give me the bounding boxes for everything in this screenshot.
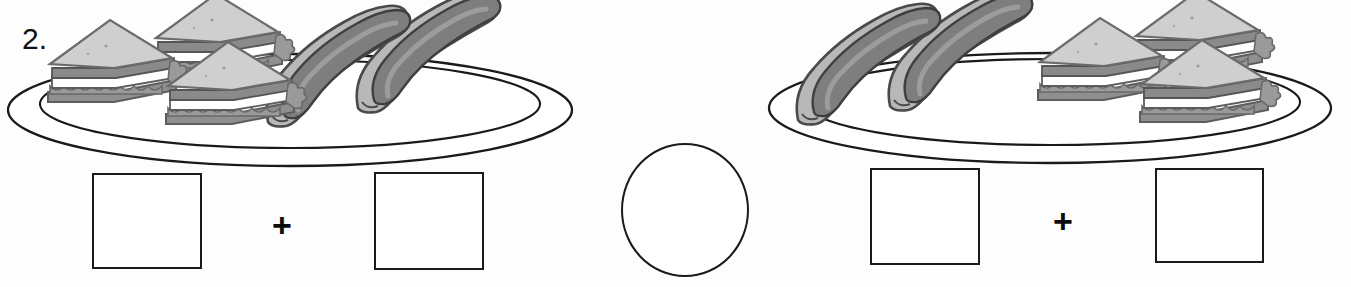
answer-box-left-1[interactable] [92,173,202,269]
answer-box-right-2[interactable] [1155,168,1264,263]
plus-sign-right: + [1053,204,1073,238]
comparison-circle[interactable] [621,143,749,277]
answer-box-right-1[interactable] [870,168,980,265]
plus-sign-left: + [272,208,292,242]
worksheet-page: 2. [0,0,1351,287]
answer-box-left-2[interactable] [374,172,484,270]
left-plate-group [0,0,600,175]
right-plate-group [762,0,1351,175]
